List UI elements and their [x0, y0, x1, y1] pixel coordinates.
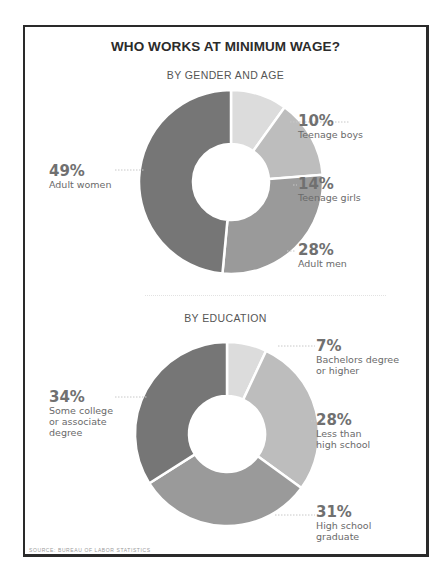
label-high-school-graduate: 31% High school graduate	[316, 504, 371, 542]
label-pct: 28%	[298, 242, 347, 258]
infographic-frame: WHO WORKS AT MINIMUM WAGE? BY GENDER AND…	[23, 25, 429, 557]
label-pct: 28%	[316, 412, 370, 428]
label-pct: 49%	[49, 163, 111, 179]
label-pct: 14%	[298, 176, 361, 192]
label-adult-women: 49% Adult women	[49, 163, 111, 190]
donut-chart-gender	[139, 90, 323, 274]
label-text: Adult women	[49, 179, 111, 190]
label-text: Teenage girls	[298, 192, 361, 203]
label-pct: 31%	[316, 504, 371, 520]
label-pct: 7%	[316, 338, 399, 354]
source-note: SOURCE: BUREAU OF LABOR STATISTICS	[29, 547, 151, 553]
label-adult-men: 28% Adult men	[298, 242, 347, 269]
donut-slice-some-college-or-associate-degree	[135, 342, 227, 483]
label-text: Less than high school	[316, 428, 370, 450]
label-pct: 34%	[49, 389, 113, 405]
label-text: Some college or associate degree	[49, 405, 113, 438]
donut-charts	[25, 27, 426, 554]
label-teenage-boys: 10% Teenage boys	[298, 113, 363, 140]
label-text: Bachelors degree or higher	[316, 354, 399, 376]
label-text: Teenage boys	[298, 129, 363, 140]
label-less-than-high-school: 28% Less than high school	[316, 412, 370, 450]
label-teenage-girls: 14% Teenage girls	[298, 176, 361, 203]
label-text: Adult men	[298, 258, 347, 269]
label-bachelors: 7% Bachelors degree or higher	[316, 338, 399, 376]
donut-slice-adult-women	[139, 90, 231, 274]
label-pct: 10%	[298, 113, 363, 129]
donut-chart-education	[135, 342, 319, 526]
label-some-college: 34% Some college or associate degree	[49, 389, 113, 438]
label-text: High school graduate	[316, 520, 371, 542]
